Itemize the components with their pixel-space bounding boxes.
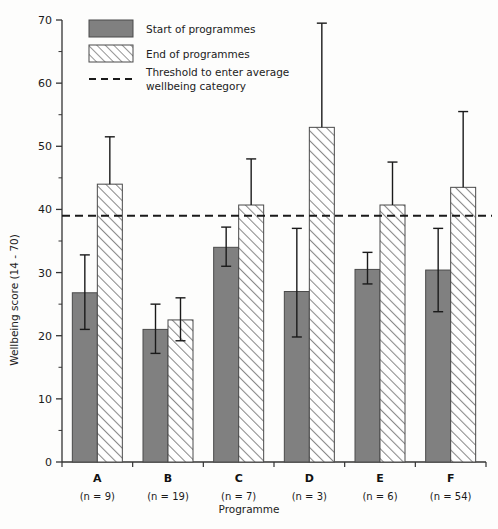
chart-canvas: Start of programmes End of programmes Th…: [0, 0, 498, 529]
x-axis-title: Programme: [219, 503, 280, 515]
y-tick-label-50: 50: [38, 140, 52, 153]
bar-f-end: [451, 187, 476, 462]
y-tick-label-40: 40: [38, 203, 52, 216]
bar-a-end: [97, 184, 122, 462]
x-category-n-c: (n = 7): [221, 491, 256, 502]
x-category-n-b: (n = 19): [147, 491, 189, 502]
legend-label-threshold-line1: Threshold to enter average: [145, 66, 289, 78]
y-tick-label-20: 20: [38, 330, 52, 343]
x-category-n-d: (n = 3): [292, 491, 327, 502]
x-category-label-e: E: [376, 472, 384, 485]
legend-label-end-of-programmes: End of programmes: [146, 48, 250, 60]
wellbeing-bar-chart: Start of programmes End of programmes Th…: [0, 0, 498, 529]
legend-swatch-end-of-programmes: [89, 45, 133, 62]
bar-c-end: [239, 205, 264, 462]
bar-e-end: [380, 205, 405, 462]
legend-label-threshold-line2: wellbeing category: [146, 80, 246, 92]
x-category-label-c: C: [235, 472, 243, 485]
x-category-label-b: B: [164, 472, 172, 485]
y-tick-label-60: 60: [38, 77, 52, 90]
x-category-label-f: F: [447, 472, 455, 485]
x-category-label-a: A: [93, 472, 102, 485]
legend-swatch-start-of-programmes: [89, 20, 133, 37]
legend-label-start-of-programmes: Start of programmes: [146, 23, 255, 35]
bar-d-end: [309, 127, 334, 462]
x-category-n-e: (n = 6): [362, 491, 397, 502]
y-tick-label-30: 30: [38, 267, 52, 280]
y-axis-title: Wellbeing score (14 - 70): [8, 234, 20, 366]
bar-c-start: [214, 247, 239, 462]
bar-e-start: [355, 269, 380, 462]
x-category-n-f: (n = 54): [430, 491, 472, 502]
x-category-label-d: D: [305, 472, 314, 485]
x-category-n-a: (n = 9): [80, 491, 115, 502]
y-tick-label-0: 0: [45, 456, 52, 469]
y-tick-label-10: 10: [38, 393, 52, 406]
y-tick-label-70: 70: [38, 14, 52, 27]
